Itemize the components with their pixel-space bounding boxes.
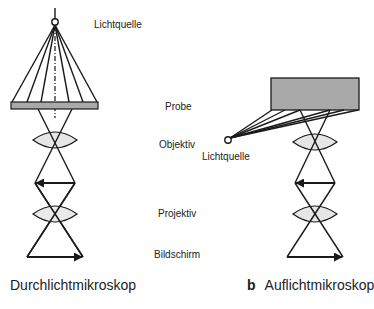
objective-lens-icon — [33, 132, 77, 148]
label-light-source-right: Lichtquelle — [202, 151, 250, 162]
reflected-light-microscope — [225, 78, 359, 257]
label-screen: Bildschirm — [154, 249, 200, 260]
sample-block — [271, 78, 359, 110]
caption-right-text: Auflichtmikroskop — [265, 277, 374, 293]
caption-left: Durchlichtmikroskop — [10, 277, 136, 293]
sample-slide — [11, 102, 98, 109]
label-light-source-left: Lichtquelle — [94, 19, 142, 30]
label-objective: Objektiv — [159, 139, 195, 150]
caption-left-text: Durchlichtmikroskop — [10, 277, 136, 293]
label-sample: Probe — [165, 101, 192, 112]
label-projective: Projektiv — [158, 208, 196, 219]
transmitted-light-microscope — [11, 8, 98, 257]
light-source-icon — [52, 19, 58, 25]
light-source-icon — [225, 137, 231, 143]
illumination-rays-oblique — [230, 110, 358, 138]
panel-letter: b — [247, 277, 256, 293]
caption-right: bAuflichtmikroskop — [247, 277, 374, 293]
